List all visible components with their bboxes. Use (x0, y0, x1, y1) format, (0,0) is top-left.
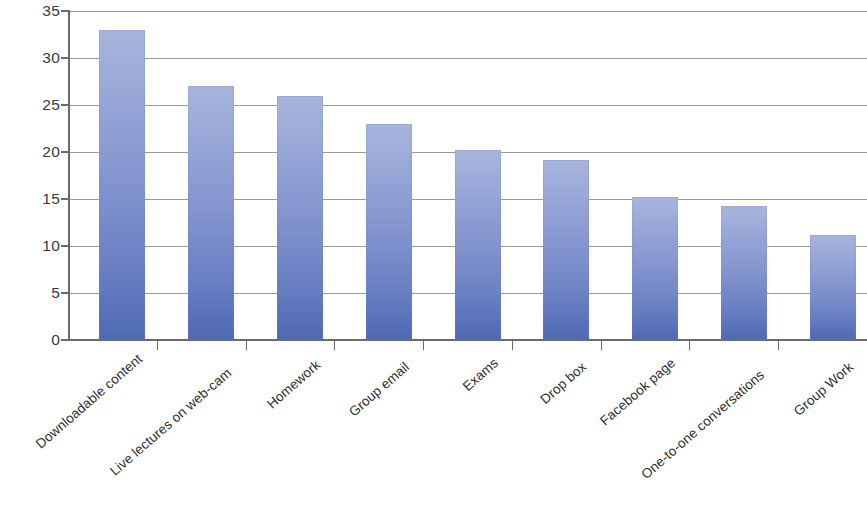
x-axis-tick-mark (157, 341, 158, 350)
x-axis-tick-mark (334, 341, 335, 350)
x-axis-tick-mark (778, 341, 779, 350)
x-axis-category-label: One-to-one conversations (639, 368, 767, 482)
x-axis-category-label: Group email (347, 360, 412, 419)
y-axis-tick-mark (61, 339, 70, 341)
x-axis-tick-mark (246, 341, 247, 350)
x-axis-category-label: Downloadable content (34, 352, 145, 451)
x-axis-category-label: Drop box (538, 360, 589, 407)
y-axis-tick-mark (61, 10, 70, 12)
y-axis-tick-mark (61, 57, 70, 59)
x-axis-tick-mark (423, 341, 424, 350)
x-axis-category-label: Live lectures on web-cam (108, 366, 234, 478)
x-axis-tick-mark (512, 341, 513, 350)
y-axis-tick-mark (61, 198, 70, 200)
x-axis-category-label: Group Work (792, 360, 856, 418)
y-axis-tick-mark (61, 151, 70, 153)
x-axis-category-label: Exams (460, 356, 500, 394)
x-axis-tick-mark (689, 341, 690, 350)
x-axis-category-labels: Downloadable contentLive lectures on web… (0, 0, 867, 506)
x-axis-tick-mark (601, 341, 602, 350)
y-axis-tick-mark (61, 292, 70, 294)
x-axis-category-label: Facebook page (598, 356, 678, 428)
bar-chart: 35302520151050 Downloadable contentLive … (0, 0, 867, 506)
y-axis-tick-mark (61, 245, 70, 247)
x-axis-category-label: Homework (265, 358, 323, 411)
y-axis-tick-mark (61, 104, 70, 106)
